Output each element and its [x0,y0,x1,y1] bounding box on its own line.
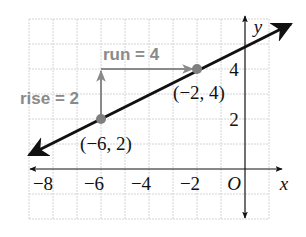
x-tick-label: −2 [180,173,200,194]
point-neg6-2 [96,114,106,124]
point-label: (−2, 4) [173,82,225,104]
origin-label: O [227,173,241,194]
point-label: (−6, 2) [80,133,132,155]
y-axis-label: y [252,16,263,37]
x-tick-label: −8 [33,173,53,194]
y-tick-label: 4 [229,59,239,80]
point-neg2-4 [192,64,202,74]
rise-label: rise = 2 [20,89,79,108]
y-tick-label: 2 [229,109,239,130]
coordinate-plane: −8 −6 −4 −2 O x y 4 2 (−6, 2) (−2, 4) ri… [0,0,306,237]
x-axis-label: x [279,173,289,194]
x-tick-label: −4 [131,173,152,194]
run-label: run = 4 [103,45,160,64]
x-tick-label: −6 [84,173,104,194]
